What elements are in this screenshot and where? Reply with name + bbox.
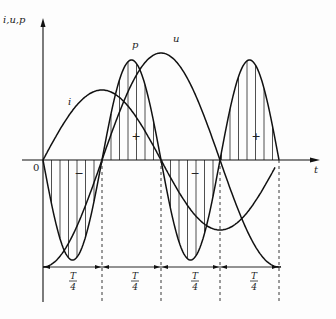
quarter-label-2: T 4 [131, 271, 139, 292]
svg-text:4: 4 [131, 282, 138, 292]
dimension-arrow-icon [95, 265, 101, 269]
svg-text:T: T [132, 271, 139, 281]
dimension-arrow-icon [213, 265, 219, 269]
quarter-period-markers [43, 160, 279, 302]
svg-text:T: T [251, 271, 258, 281]
dimension-arrow-icon [162, 265, 168, 269]
sign-positive-1: + [131, 130, 140, 143]
t-axis-arrow-icon [310, 158, 320, 163]
y-axis-arrow-icon [41, 18, 46, 27]
svg-text:T: T [192, 271, 199, 281]
voltage-label: u [173, 33, 179, 44]
sign-positive-2: + [251, 130, 260, 143]
dimension-arrow-icon [103, 265, 109, 269]
svg-text:4: 4 [250, 282, 257, 292]
power-waveform-diagram: i,u,p t 0 i u p − + − + T 4 T 4 T [0, 0, 336, 319]
waveform-plot: i,u,p t 0 i u p − + − + T 4 T 4 T [0, 0, 336, 319]
dimension-arrow-icon [154, 265, 160, 269]
quarter-period-labels: T 4 T 4 T 4 T 4 [69, 271, 258, 292]
dimension-arrow-icon [44, 265, 50, 269]
dimension-arrow-icon [272, 265, 278, 269]
quarter-label-4: T 4 [250, 271, 258, 292]
quarter-label-1: T 4 [69, 271, 77, 292]
t-axis-label: t [314, 164, 319, 175]
svg-text:4: 4 [191, 282, 198, 292]
quarter-label-3: T 4 [191, 271, 199, 292]
current-label: i [68, 96, 71, 107]
y-axis-label: i,u,p [3, 14, 26, 25]
power-label: p [132, 39, 139, 50]
sign-negative-1: − [74, 167, 83, 180]
sign-negative-2: − [190, 167, 199, 180]
dimension-arrow-icon [221, 265, 227, 269]
svg-text:T: T [70, 271, 77, 281]
svg-text:4: 4 [69, 282, 76, 292]
origin-label: 0 [33, 162, 39, 173]
